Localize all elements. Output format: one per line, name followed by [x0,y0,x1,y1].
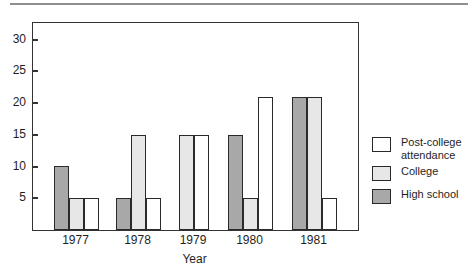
bar-1980-post-college-attendance [258,97,273,230]
x-axis-tick-label: 1979 [163,233,223,247]
y-axis-tick [33,102,38,104]
legend-label-high-school: High school [401,188,458,201]
legend-swatch-post-college-attendance [372,137,391,152]
y-axis-labels: 51015202530 [0,22,26,229]
y-axis-tick [33,197,38,199]
x-axis-tick-label: 1977 [46,233,106,247]
bar-1981-post-college-attendance [322,198,337,230]
bar-1979-college [179,135,194,230]
bar-1978-college [131,135,146,230]
y-axis-tick-label: 30 [0,32,26,46]
bar-1977-high-school [54,166,69,230]
bar-1979-post-college-attendance [194,135,209,230]
x-axis-tick-label: 1981 [284,233,344,247]
y-axis-tick-label: 10 [0,159,26,173]
bar-1977-post-college-attendance [84,198,99,230]
y-axis-tick [33,134,38,136]
y-axis-tick-label: 20 [0,95,26,109]
legend-swatch-college [372,166,391,181]
legend-swatch-high-school [372,189,391,204]
top-rule [10,3,468,5]
legend-label-college: College [401,165,438,178]
figure: 51015202530 19771978197919801981 Year Po… [0,0,471,275]
bar-1980-high-school [228,135,243,230]
x-axis-labels: 19771978197919801981 [32,233,357,247]
x-axis-title: Year [32,252,357,266]
y-axis-tick [33,166,38,168]
y-axis-tick-label: 15 [0,127,26,141]
y-axis-tick [33,39,38,41]
bar-1977-college [69,198,84,230]
legend-label-post-college-attendance: Post-college attendance [401,136,462,162]
y-axis-tick-label: 5 [0,190,26,204]
bar-1978-post-college-attendance [146,198,161,230]
bar-1978-high-school [116,198,131,230]
legend: Post-college attendanceCollegeHigh schoo… [372,136,467,211]
bar-1980-college [243,198,258,230]
y-axis-tick [33,70,38,72]
x-axis-tick-label: 1980 [220,233,280,247]
x-axis-tick-label: 1978 [108,233,168,247]
bar-1981-college [307,97,322,230]
plot-area [32,22,359,231]
legend-item-college: College [372,165,467,181]
legend-item-post-college-attendance: Post-college attendance [372,136,467,162]
legend-item-high-school: High school [372,188,467,204]
bar-1981-high-school [292,97,307,230]
y-axis-tick-label: 25 [0,63,26,77]
